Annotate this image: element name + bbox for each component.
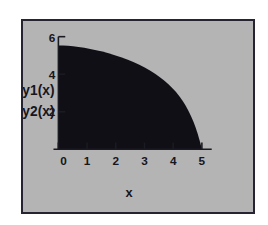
x-axis-title: x xyxy=(126,185,133,200)
y-tick-label-4: 4 xyxy=(49,68,56,81)
x-tick-label-1: 1 xyxy=(84,154,91,167)
figure-root: 6 4 2 0 1 2 3 4 5 y1(x) y2(x) x xyxy=(0,0,268,225)
x-tick-label-2: 2 xyxy=(113,154,120,167)
x-tick-label-0: 0 xyxy=(60,154,67,167)
x-tick-label-4: 4 xyxy=(170,154,177,167)
plot-canvas: 6 4 2 0 1 2 3 4 5 y1(x) y2(x) x xyxy=(23,21,253,212)
series-label-y2: y2(x) xyxy=(23,104,54,119)
filled-area-between-curves xyxy=(58,45,202,149)
series-label-y1: y1(x) xyxy=(23,83,54,98)
plot-panel: 6 4 2 0 1 2 3 4 5 y1(x) y2(x) x xyxy=(21,19,255,214)
y-tick-label-6: 6 xyxy=(49,31,56,44)
x-tick-label-3: 3 xyxy=(141,154,148,167)
x-tick-label-5: 5 xyxy=(199,154,206,167)
